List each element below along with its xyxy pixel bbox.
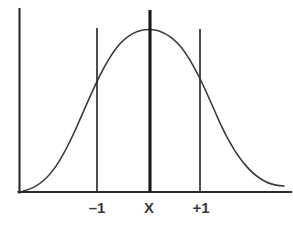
tick-label-minus-one: –1 (89, 199, 106, 216)
normal-distribution-chart: –1 X +1 (0, 0, 293, 225)
tick-label-plus-one: +1 (192, 199, 209, 216)
tick-label-mean: X (144, 199, 154, 216)
bell-curve-figure: –1 X +1 (0, 0, 293, 225)
